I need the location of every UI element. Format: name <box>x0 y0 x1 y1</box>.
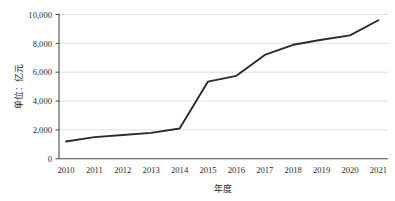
x-tick-label-2016: 2016 <box>228 165 246 175</box>
y-axis-title: 单位：亿元 <box>13 64 24 109</box>
x-tick-label-2017: 2017 <box>256 165 274 175</box>
y-tick-label-6000: 6,000 <box>33 67 52 77</box>
x-tick-label-2020: 2020 <box>341 165 358 175</box>
x-tick-label-2010: 2010 <box>57 165 74 175</box>
data-series-line <box>66 20 378 141</box>
x-axis-tick-labels: 2010 2011 2012 2013 2014 2015 2016 2017 … <box>57 165 387 175</box>
chart-plot-area: 10,000 8,000 6,000 4,000 2,000 0 2010 20… <box>0 0 395 201</box>
x-tick-label-2019: 2019 <box>313 165 330 175</box>
x-tick-label-2014: 2014 <box>171 165 189 175</box>
line-chart: 10,000 8,000 6,000 4,000 2,000 0 2010 20… <box>0 0 395 201</box>
x-tick-label-2011: 2011 <box>86 165 103 175</box>
y-tick-label-10000: 10,000 <box>28 10 52 20</box>
y-axis-tick-labels: 10,000 8,000 6,000 4,000 2,000 0 <box>28 10 52 164</box>
x-tick-label-2015: 2015 <box>199 165 216 175</box>
x-tick-label-2021: 2021 <box>370 165 387 175</box>
gridlines <box>59 15 388 130</box>
x-tick-label-2013: 2013 <box>143 165 160 175</box>
x-tick-label-2018: 2018 <box>285 165 302 175</box>
y-tick-label-8000: 8,000 <box>33 39 52 49</box>
y-tick-label-2000: 2,000 <box>33 125 52 135</box>
x-axis-title: 年度 <box>214 183 232 194</box>
x-tick-label-2012: 2012 <box>114 165 131 175</box>
y-tick-label-0: 0 <box>48 154 52 164</box>
y-tick-label-4000: 4,000 <box>33 96 52 106</box>
